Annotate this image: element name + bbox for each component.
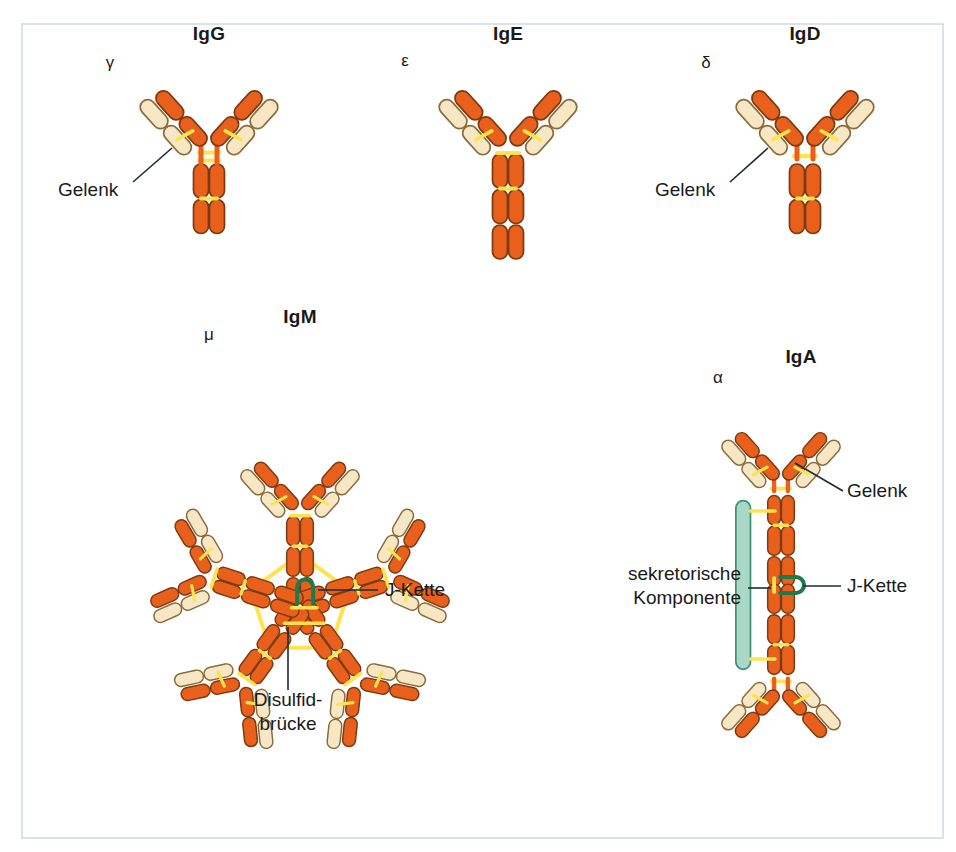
heavy-chain-domain [300, 517, 313, 546]
panel-title-igd: IgD [789, 23, 820, 44]
heavy-chain-domain [210, 164, 225, 198]
heavy-chain-domain [342, 717, 358, 747]
heavy-chain-domain [781, 526, 794, 555]
heavy-chain-domain [300, 547, 313, 576]
heavy-chain-domain [781, 584, 794, 613]
heavy-chain-domain [781, 496, 794, 525]
heavy-chain-domain [781, 557, 794, 586]
heavy-chain-domain [781, 645, 794, 674]
panel-title-iga: IgA [785, 346, 816, 367]
callout-iga-j-chain: J-Kette [847, 575, 907, 596]
heavy-chain-domain [287, 517, 300, 546]
callout-igd-hinge: Gelenk [655, 179, 716, 200]
heavy-chain-symbol-iga: α [713, 368, 723, 387]
secretory-component [736, 501, 751, 670]
heavy-chain-domain [509, 225, 524, 259]
figure-canvas: IgGγGelenkIgEεIgDδGelenkIgMμJ-KetteDisul… [0, 0, 956, 852]
heavy-chain-domain [781, 615, 794, 644]
heavy-chain-symbol-igg: γ [106, 53, 115, 72]
heavy-chain-domain [493, 154, 508, 188]
callout-iga-secretory-component-line2: Komponente [633, 587, 741, 608]
heavy-chain-domain [194, 164, 209, 198]
heavy-chain-domain [242, 717, 258, 747]
heavy-chain-domain [806, 200, 821, 234]
heavy-chain-domain [790, 164, 805, 198]
heavy-chain-domain [509, 190, 524, 224]
heavy-chain-domain [768, 526, 781, 555]
heavy-chain-domain [493, 225, 508, 259]
heavy-chain-symbol-ige: ε [401, 51, 409, 70]
heavy-chain-domain [790, 200, 805, 234]
callout-igm-j-chain: J-Kette [385, 579, 445, 600]
panel-title-igm: IgM [283, 306, 316, 327]
heavy-chain-domain [509, 154, 524, 188]
heavy-chain-domain [194, 200, 209, 234]
immunoglobulin-figure: IgGγGelenkIgEεIgDδGelenkIgMμJ-KetteDisul… [0, 0, 956, 852]
heavy-chain-domain [210, 200, 225, 234]
heavy-chain-domain [806, 164, 821, 198]
light-chain-domain [327, 719, 343, 749]
heavy-chain-domain [768, 615, 781, 644]
callout-igg-hinge: Gelenk [58, 179, 119, 200]
heavy-chain-domain [287, 547, 300, 576]
heavy-chain-symbol-igd: δ [701, 53, 710, 72]
panel-title-ige: IgE [493, 23, 523, 44]
callout-iga-secretory-component: sekretorische [628, 563, 741, 584]
callout-iga-hinge: Gelenk [847, 480, 908, 501]
heavy-chain-symbol-igm: μ [204, 325, 214, 344]
heavy-chain-domain [493, 190, 508, 224]
callout-igm-disulfide-bridge: Disulfid- [254, 689, 323, 710]
panel-title-igg: IgG [193, 23, 225, 44]
callout-igm-disulfide-bridge-line2: brücke [259, 713, 316, 734]
